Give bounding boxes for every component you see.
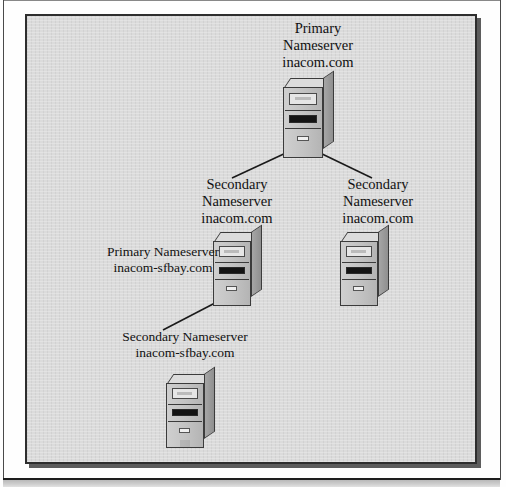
page-rule-right [500, 0, 501, 480]
server-lower-vent [180, 440, 190, 448]
page-rule-left [3, 0, 4, 480]
server-bay-vent [177, 392, 192, 395]
server-floppy-slot [289, 115, 317, 123]
label-primary-root: Primary Nameserver inacom.com [252, 20, 384, 70]
server-tower-secondary-sfbay [166, 374, 204, 448]
server-bay-vent [351, 250, 366, 253]
server-panel-divider [215, 279, 249, 280]
server-power-button [353, 286, 364, 291]
server-panel-divider [285, 110, 321, 111]
server-power-button [297, 136, 309, 141]
server-front-face [283, 87, 323, 158]
server-panel-divider [285, 128, 321, 129]
server-power-button [179, 428, 190, 433]
server-floppy-slot [172, 409, 198, 416]
server-tower-secondary-right [340, 232, 378, 306]
server-front-face [340, 241, 378, 306]
label-secondary-sfbay: Secondary Nameserver inacom-sfbay.com [104, 329, 266, 360]
page-footer-band [3, 480, 500, 487]
server-front-face [166, 383, 204, 448]
server-side-face [204, 367, 215, 439]
server-tower-primary-root [283, 78, 323, 158]
server-side-face [251, 225, 262, 297]
server-panel-divider [168, 404, 202, 405]
server-side-face [323, 71, 334, 149]
server-floppy-slot [346, 267, 372, 274]
label-secondary-left: Secondary Nameserver inacom.com [171, 176, 303, 226]
server-power-button [226, 286, 237, 291]
scanned-page: Primary Nameserver inacom.com Secondary … [0, 0, 506, 487]
server-bay-vent [295, 97, 311, 100]
server-side-face [378, 225, 389, 297]
server-panel-divider [342, 262, 376, 263]
label-primary-sfbay: Primary Nameserver inacom-sfbay.com [88, 244, 238, 275]
label-secondary-right: Secondary Nameserver inacom.com [312, 176, 444, 226]
page-rule-top [3, 0, 500, 1]
server-panel-divider [168, 421, 202, 422]
server-panel-divider [342, 279, 376, 280]
